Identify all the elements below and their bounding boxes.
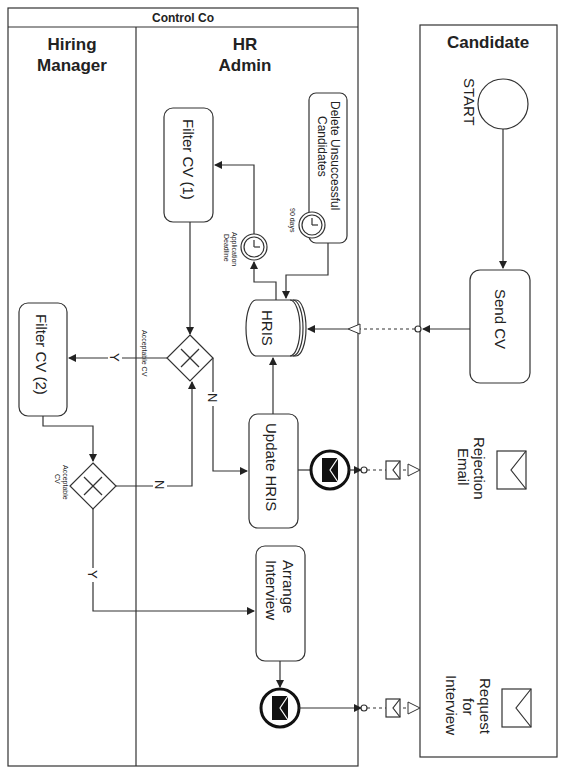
svg-text:Email: Email — [455, 448, 472, 486]
edge-label-g2-yes: Y — [85, 570, 100, 579]
svg-text:Interview: Interview — [263, 560, 280, 620]
svg-text:for: for — [460, 698, 477, 716]
svg-text:Deadline: Deadline — [223, 234, 230, 262]
pool-candidate-title: Candidate — [447, 33, 529, 52]
message-throw-event-interview[interactable] — [261, 689, 299, 727]
svg-text:Interview: Interview — [443, 675, 460, 735]
timer-application-deadline: Application Deadline — [223, 232, 267, 266]
edge-label-g1-no: N — [205, 393, 220, 402]
task-filter-cv-2[interactable]: Filter CV (2) — [19, 303, 67, 416]
lane-hr-admin: HR Admin — [219, 35, 272, 75]
edge-label-g2-no: N — [152, 480, 167, 489]
svg-text:HRIS: HRIS — [259, 310, 276, 346]
svg-text:Candidates: Candidates — [315, 116, 329, 177]
svg-text:90 days: 90 days — [288, 208, 296, 233]
svg-text:CV: CV — [54, 474, 61, 484]
start-event[interactable]: START — [461, 78, 528, 129]
gateway-acceptable-cv-2[interactable]: Acceptable CV — [54, 463, 116, 509]
pool-title: Control Co — [152, 11, 214, 25]
message-rejection-email: Rejection Email — [455, 437, 526, 500]
svg-text:START: START — [461, 78, 478, 126]
svg-text:Manager: Manager — [37, 56, 107, 75]
svg-text:Send CV: Send CV — [492, 289, 509, 349]
svg-text:Application: Application — [230, 232, 238, 266]
bpmn-diagram: Control Co Hiring Manager HR Admin Candi… — [0, 0, 565, 769]
svg-text:Acceptable CV: Acceptable CV — [140, 330, 148, 377]
svg-text:Acceptable: Acceptable — [61, 465, 69, 500]
svg-text:Request: Request — [477, 678, 494, 735]
gateway-acceptable-cv-1[interactable]: Acceptable CV — [140, 330, 213, 381]
svg-text:Update HRIS: Update HRIS — [263, 423, 280, 511]
svg-text:Rejection: Rejection — [471, 437, 488, 500]
lane-hiring-manager: Hiring Manager — [37, 35, 107, 75]
task-filter-cv-1[interactable]: Filter CV (1) — [164, 108, 213, 222]
message-icon-interview-flow — [386, 699, 400, 717]
message-icon-rejection-flow — [386, 461, 400, 479]
svg-text:Delete Unsuccessful: Delete Unsuccessful — [328, 101, 342, 210]
svg-text:Hiring: Hiring — [47, 35, 96, 54]
svg-text:Filter CV (2): Filter CV (2) — [33, 314, 50, 395]
svg-text:Arrange: Arrange — [280, 560, 297, 613]
task-update-hris[interactable]: Update HRIS — [249, 414, 298, 528]
message-throw-event-rejection[interactable] — [311, 451, 349, 489]
message-request-for-interview: Request for Interview — [443, 675, 531, 735]
svg-text:Admin: Admin — [219, 56, 272, 75]
pool-candidate: Candidate — [420, 25, 557, 757]
edge-label-g1-yes: Y — [107, 353, 122, 362]
svg-text:HR: HR — [233, 35, 258, 54]
data-store-hris[interactable]: HRIS — [246, 300, 306, 356]
task-send-cv[interactable]: Send CV — [470, 270, 530, 383]
task-arrange-interview[interactable]: Arrange Interview — [256, 546, 305, 661]
svg-text:Filter CV (1): Filter CV (1) — [180, 119, 197, 200]
